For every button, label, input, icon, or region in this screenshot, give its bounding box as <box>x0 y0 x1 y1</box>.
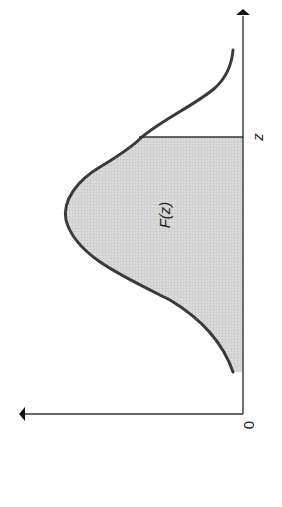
z-label: z <box>249 133 266 142</box>
area-label: F(z) <box>156 202 173 229</box>
origin-label: 0 <box>240 421 257 429</box>
normal-distribution-diagram: F(z) z 0 <box>0 0 282 507</box>
axis-arrow-left-icon <box>19 407 25 421</box>
axis-arrow-up-icon <box>236 9 250 15</box>
